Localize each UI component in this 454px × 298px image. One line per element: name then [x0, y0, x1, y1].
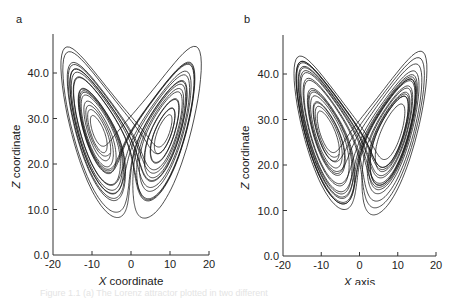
y-axis-title: Z coordinate: [10, 125, 22, 190]
y-tick-label: 30.0: [258, 114, 279, 126]
chart-a: 0.010.020.030.040.0-20-1001020X coordina…: [0, 0, 227, 285]
x-tick-label: 0: [128, 258, 134, 270]
chart-b: 0.010.020.030.040.0-20-1001020X axisZ co…: [227, 0, 454, 285]
y-tick-label: 40.0: [28, 67, 49, 79]
x-tick-label: 10: [164, 258, 176, 270]
x-tick-label: -20: [275, 259, 291, 271]
figure-caption: Figure 1.1 (a) The Lorenz attractor plot…: [40, 288, 268, 298]
x-tick-label: 10: [392, 259, 404, 271]
panel-a: a 0.010.020.030.040.0-20-1001020X coordi…: [0, 0, 227, 285]
x-tick-label: 20: [430, 259, 442, 271]
y-tick-label: 30.0: [28, 113, 49, 125]
x-tick-label: 0: [356, 259, 362, 271]
x-tick-label: -10: [84, 258, 100, 270]
y-tick-label: 20.0: [28, 158, 49, 170]
attractor-trajectory: [61, 46, 201, 218]
x-axis-title: X coordinate: [98, 275, 164, 285]
x-axis-title: X axis: [343, 276, 376, 285]
y-tick-label: 10.0: [258, 205, 279, 217]
attractor-trajectory: [294, 51, 427, 215]
y-axis-title: Z coordinate: [239, 126, 251, 191]
x-tick-label: -10: [313, 259, 329, 271]
panel-b: b 0.010.020.030.040.0-20-1001020X axisZ …: [227, 0, 454, 285]
y-tick-label: 20.0: [258, 159, 279, 171]
y-tick-label: 40.0: [258, 68, 279, 80]
y-tick-label: 10.0: [28, 204, 49, 216]
x-tick-label: 20: [203, 258, 215, 270]
x-tick-label: -20: [45, 258, 61, 270]
